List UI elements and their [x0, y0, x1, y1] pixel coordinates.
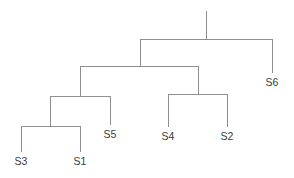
leaf-label-s5: S5: [103, 128, 116, 140]
leaf-label-s6: S6: [265, 76, 278, 88]
leaf-label-s2: S2: [220, 130, 233, 142]
leaf-label-s4: S4: [161, 130, 174, 142]
leaf-label-s3: S3: [14, 155, 27, 167]
dendrogram-figure: S3 S1 S5 S4 S2 S6: [0, 0, 294, 178]
leaf-label-s1: S1: [73, 155, 86, 167]
dendrogram-canvas: [0, 0, 294, 178]
